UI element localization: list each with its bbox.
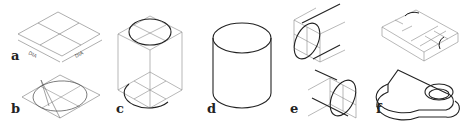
panel-label-c: c — [116, 102, 124, 115]
panel-label-a: a — [11, 49, 19, 62]
panel-e-construction — [294, 8, 356, 118]
panel-f-part — [376, 70, 459, 120]
panel-b-ellipse — [22, 75, 100, 118]
panel-c-top-ellipse — [129, 19, 171, 45]
panel-e-cylinders — [289, 4, 361, 120]
panel-label-b: b — [11, 102, 20, 115]
panel-label-d: d — [207, 102, 216, 115]
panel-label-f: f — [376, 102, 382, 115]
isometric-drawings: DIA DIA — [0, 0, 470, 126]
panel-f-construction — [382, 10, 458, 61]
panel-d-cylinder — [213, 23, 271, 108]
panel-label-e: e — [290, 102, 298, 115]
panel-c-box — [118, 16, 182, 108]
dim-left-label: DIA — [28, 50, 39, 60]
